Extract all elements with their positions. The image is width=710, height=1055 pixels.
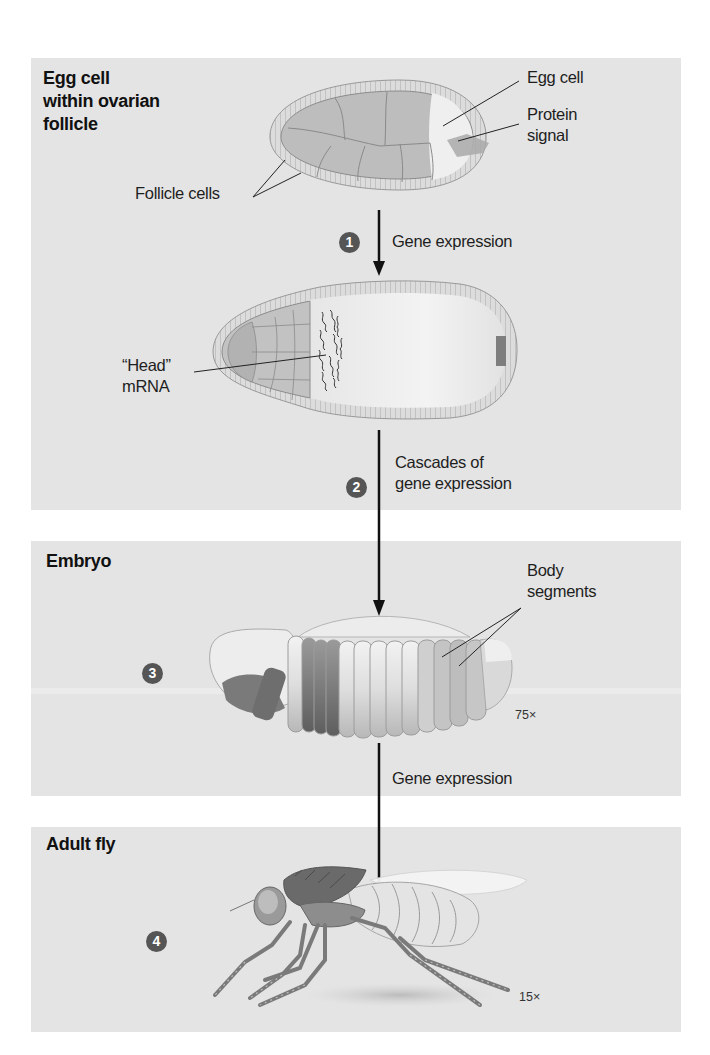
stage-badge-4: 4 (146, 931, 167, 952)
step-badge-2: 2 (346, 477, 367, 498)
label-line: segments (527, 581, 596, 602)
label-line: signal (527, 125, 577, 146)
magnification-embryo: 75× (515, 708, 536, 722)
diagram-illustrations (0, 0, 710, 1055)
arrow-step-3 (373, 743, 385, 898)
embryo-illustration (210, 616, 512, 738)
magnification-adult-fly: 15× (519, 990, 540, 1004)
egg-head-mrna-illustration (213, 281, 517, 419)
label-line: Cascades of (395, 452, 512, 473)
stage-badge-3: 3 (142, 663, 163, 684)
adult-fly-illustration (215, 867, 527, 1007)
arrow-step-1 (373, 210, 385, 276)
label-line: Protein (527, 104, 577, 125)
egg-follicle-illustration (270, 80, 489, 190)
label-line: gene expression (395, 473, 512, 494)
label-egg-cell: Egg cell (527, 67, 583, 88)
step-3-label: Gene expression (392, 768, 512, 789)
step-2-label: Cascades of gene expression (395, 452, 512, 494)
label-body-segments: Body segments (527, 560, 596, 602)
label-line: “Head” (122, 355, 171, 376)
label-protein-signal: Protein signal (527, 104, 577, 146)
label-line: Body (527, 560, 596, 581)
arrow-step-2 (373, 430, 385, 616)
label-follicle-cells: Follicle cells (135, 183, 220, 204)
step-1-label: Gene expression (392, 231, 512, 252)
label-head-mrna: “Head” mRNA (122, 355, 171, 397)
step-badge-1: 1 (339, 232, 360, 253)
label-line: mRNA (122, 376, 171, 397)
